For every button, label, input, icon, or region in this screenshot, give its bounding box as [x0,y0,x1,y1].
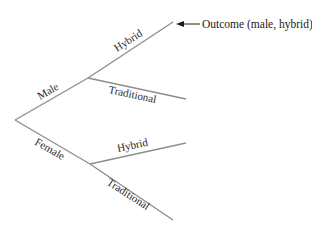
arrowhead-icon [176,21,184,27]
label-male-hybrid: Hybrid [112,26,145,53]
tree-diagram: Male Female Hybrid Traditional Hybrid Tr… [0,0,312,230]
label-female-traditional: Traditional [105,176,152,212]
label-male-traditional: Traditional [108,83,158,105]
label-male: Male [35,80,61,102]
label-female-hybrid: Hybrid [116,136,149,154]
label-female: Female [33,135,67,162]
annotation-outcome: Outcome (male, hybrid) [202,18,312,31]
